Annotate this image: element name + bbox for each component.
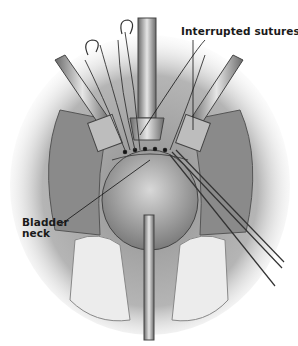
right-gauze xyxy=(172,236,228,321)
label-bladder-line2: neck xyxy=(22,228,69,239)
catheter xyxy=(144,215,154,340)
label-interrupted-sutures: Interrupted sutures xyxy=(181,26,298,37)
left-gauze xyxy=(70,236,130,321)
top-retractor xyxy=(138,18,156,118)
illustration-drawing xyxy=(0,0,298,346)
surgical-illustration: Interrupted sutures Bladder neck xyxy=(0,0,298,346)
label-bladder-neck: Bladder neck xyxy=(22,217,69,239)
